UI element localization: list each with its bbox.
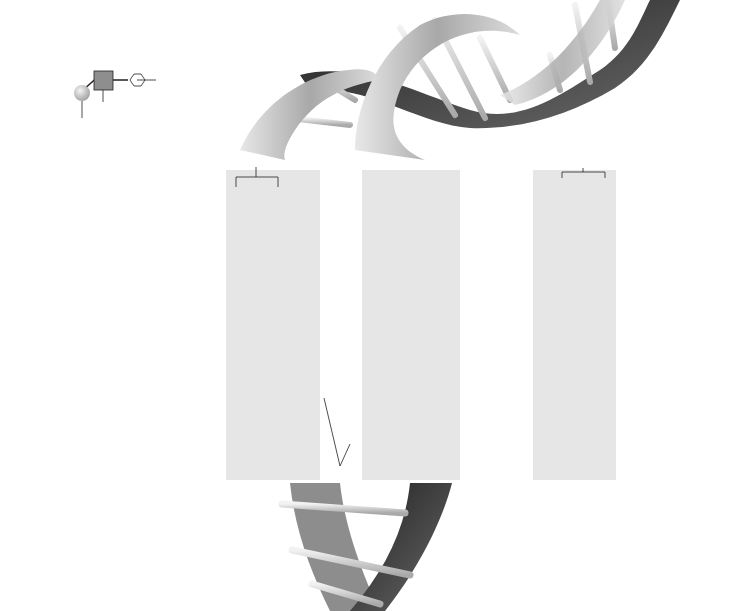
nucleotide-key-graphic (74, 71, 156, 118)
dna-helix-illustration (0, 0, 756, 611)
